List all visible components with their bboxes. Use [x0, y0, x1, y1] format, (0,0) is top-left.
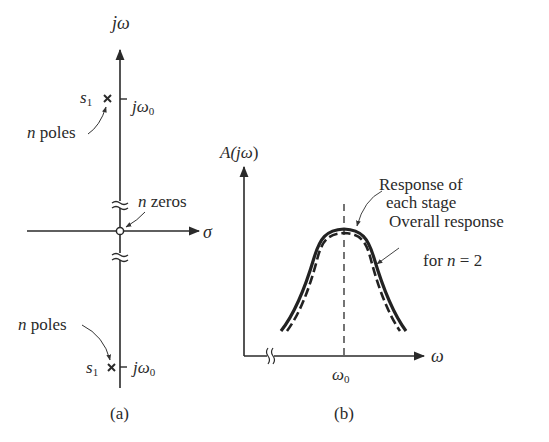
y-axis-label: A(jω) — [220, 144, 258, 161]
upper-pole-marker — [104, 95, 111, 102]
zeros-note: n zeros — [138, 193, 187, 210]
overall-annotation-line2: for n = 2 — [423, 252, 482, 269]
upper-jw0-label: jω0 — [132, 98, 154, 117]
lower-pole-marker — [108, 364, 115, 371]
upper-pole-label: s1 — [80, 89, 92, 108]
zeros-pointer — [126, 212, 145, 227]
lower-pole-label: s1 — [86, 359, 98, 378]
x-axis-break — [267, 348, 275, 364]
overall-annotation-line1: Overall response — [389, 213, 504, 230]
x-axis-label: ω — [431, 347, 444, 365]
upper-poles-pointer — [88, 107, 106, 134]
axis-break-upper — [112, 201, 128, 210]
each-stage-annotation-line1: Response of — [379, 176, 463, 193]
lower-poles-pointer — [82, 325, 110, 360]
caption-b: (b) — [334, 405, 354, 422]
each-stage-annotation-line2: each stage — [386, 194, 456, 211]
lower-poles-note: n poles — [18, 316, 67, 333]
zero-marker — [116, 227, 123, 234]
s-plane-diagram — [27, 50, 199, 388]
overall-pointer — [377, 248, 399, 264]
upper-poles-note: n poles — [27, 124, 76, 141]
sigma-axis-label: σ — [203, 223, 212, 241]
axis-break-lower — [112, 253, 128, 262]
jw-axis-label: jω — [112, 14, 130, 32]
caption-a: (a) — [110, 405, 129, 422]
lower-jw0-label: jω0 — [133, 359, 155, 378]
w0-tick-label: ω0 — [332, 366, 350, 385]
each-stage-pointer — [357, 191, 382, 226]
